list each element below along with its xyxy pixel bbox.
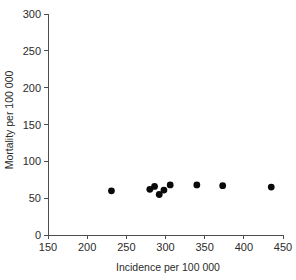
data-point: [219, 182, 226, 189]
y-tick-label: 0: [35, 229, 41, 241]
data-point: [268, 184, 275, 191]
x-tick-label: 450: [274, 241, 292, 253]
y-tick-label: 50: [29, 192, 41, 204]
data-point: [151, 183, 158, 190]
x-tick-label: 150: [39, 241, 57, 253]
y-tick-label: 150: [23, 119, 41, 131]
scatter-plot-figure: 050100150200250300 150200250300350400450…: [0, 0, 296, 280]
x-axis-title: Incidence per 100 000: [116, 261, 220, 273]
y-tick-label: 300: [23, 8, 41, 20]
y-axis: 050100150200250300: [23, 8, 48, 241]
data-point: [108, 187, 115, 194]
x-axis: 150200250300350400450: [39, 235, 292, 253]
y-tick-label: 100: [23, 155, 41, 167]
x-tick-label: 250: [117, 241, 135, 253]
x-axis-tick-labels: 150200250300350400450: [39, 241, 292, 253]
y-tick-label: 200: [23, 82, 41, 94]
y-axis-tick-labels: 050100150200250300: [23, 8, 41, 241]
data-point: [161, 187, 168, 194]
x-axis-ticks: [48, 235, 283, 239]
x-tick-label: 400: [235, 241, 253, 253]
y-axis-ticks: [44, 14, 48, 235]
y-axis-title: Mortality per 100 000: [3, 71, 15, 170]
data-points: [108, 182, 275, 198]
x-tick-label: 300: [156, 241, 174, 253]
data-point: [167, 182, 174, 189]
y-tick-label: 250: [23, 45, 41, 57]
data-point: [193, 182, 200, 189]
plot-canvas: 050100150200250300 150200250300350400450…: [0, 0, 296, 280]
x-tick-label: 350: [195, 241, 213, 253]
x-tick-label: 200: [78, 241, 96, 253]
